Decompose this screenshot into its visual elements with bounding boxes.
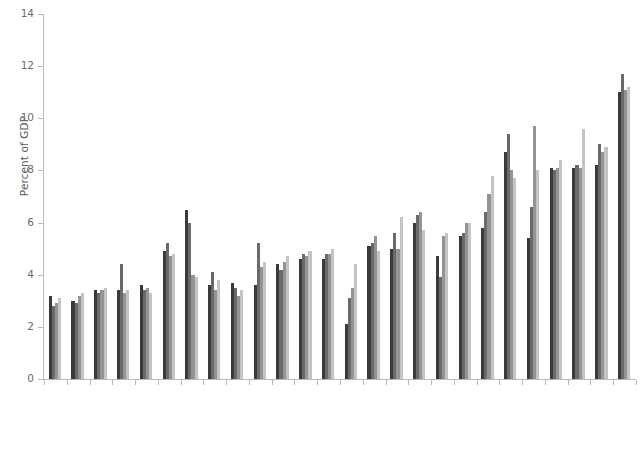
bar-group <box>231 14 243 379</box>
bar-group <box>413 14 425 379</box>
bar-group <box>71 14 83 379</box>
chart-title <box>70 0 570 4</box>
y-tick <box>38 275 43 276</box>
bar-group <box>299 14 311 379</box>
bar <box>286 256 289 379</box>
x-tick <box>408 380 409 385</box>
bar-group <box>276 14 288 379</box>
x-tick <box>522 380 523 385</box>
bar-group <box>436 14 448 379</box>
x-tick <box>590 380 591 385</box>
y-tick <box>38 170 43 171</box>
x-tick <box>44 380 45 385</box>
bar <box>513 178 516 379</box>
bar-group <box>49 14 61 379</box>
bar <box>468 223 471 379</box>
bar-group <box>481 14 493 379</box>
y-tick <box>38 223 43 224</box>
bar <box>354 264 357 379</box>
x-tick <box>112 380 113 385</box>
bar <box>172 254 175 379</box>
x-tick <box>386 380 387 385</box>
x-tick <box>181 380 182 385</box>
bar <box>58 298 61 379</box>
x-tick <box>363 380 364 385</box>
bar <box>536 170 539 379</box>
bar <box>149 293 152 379</box>
bar <box>445 233 448 379</box>
bar-group <box>254 14 266 379</box>
bar <box>126 290 129 379</box>
y-tick-label: 6 <box>0 217 34 228</box>
bar-group <box>185 14 197 379</box>
plot-area <box>44 14 636 379</box>
x-tick <box>477 380 478 385</box>
bar <box>491 176 494 379</box>
y-axis-label: Percent of GDP <box>18 86 30 226</box>
bar <box>240 290 243 379</box>
bar <box>559 160 562 379</box>
x-tick <box>90 380 91 385</box>
bar <box>195 277 198 379</box>
bar <box>377 251 380 379</box>
x-tick <box>272 380 273 385</box>
x-tick <box>568 380 569 385</box>
bar-group <box>163 14 175 379</box>
x-tick <box>340 380 341 385</box>
bar-group <box>504 14 516 379</box>
x-tick <box>613 380 614 385</box>
x-tick <box>294 380 295 385</box>
y-tick <box>38 66 43 67</box>
bar <box>400 217 403 379</box>
x-tick <box>545 380 546 385</box>
bar <box>308 251 311 379</box>
x-tick <box>636 380 637 385</box>
bar-group <box>322 14 334 379</box>
bar <box>217 280 220 379</box>
bar <box>422 230 425 379</box>
bar-group <box>208 14 220 379</box>
bar <box>604 147 607 379</box>
x-tick <box>226 380 227 385</box>
x-tick <box>317 380 318 385</box>
bar-group <box>345 14 357 379</box>
x-tick <box>203 380 204 385</box>
bar-group <box>390 14 402 379</box>
bar <box>104 288 107 379</box>
bar <box>331 249 334 379</box>
y-tick-label: 12 <box>0 60 34 71</box>
bar-group <box>527 14 539 379</box>
x-tick <box>431 380 432 385</box>
bar-group <box>140 14 152 379</box>
y-tick-label: 8 <box>0 164 34 175</box>
y-tick-label: 14 <box>0 8 34 19</box>
x-tick <box>499 380 500 385</box>
bar-group <box>367 14 379 379</box>
bar <box>627 87 630 379</box>
y-tick <box>38 118 43 119</box>
bar-group <box>595 14 607 379</box>
bar-group <box>117 14 129 379</box>
x-tick <box>158 380 159 385</box>
bar <box>263 262 266 379</box>
y-tick-label: 4 <box>0 269 34 280</box>
bar-group <box>618 14 630 379</box>
bar <box>582 129 585 379</box>
bar <box>81 293 84 379</box>
bar-group <box>572 14 584 379</box>
x-tick <box>135 380 136 385</box>
y-tick-label: 2 <box>0 321 34 332</box>
bar-group <box>94 14 106 379</box>
y-tick <box>38 327 43 328</box>
bar-chart: Percent of GDP 02468101214 PakistanBangl… <box>0 0 641 476</box>
x-tick <box>249 380 250 385</box>
x-tick <box>454 380 455 385</box>
y-tick-label: 10 <box>0 112 34 123</box>
x-tick <box>67 380 68 385</box>
y-tick-label: 0 <box>0 373 34 384</box>
bar-group <box>550 14 562 379</box>
y-tick <box>38 14 43 15</box>
bar-group <box>459 14 471 379</box>
